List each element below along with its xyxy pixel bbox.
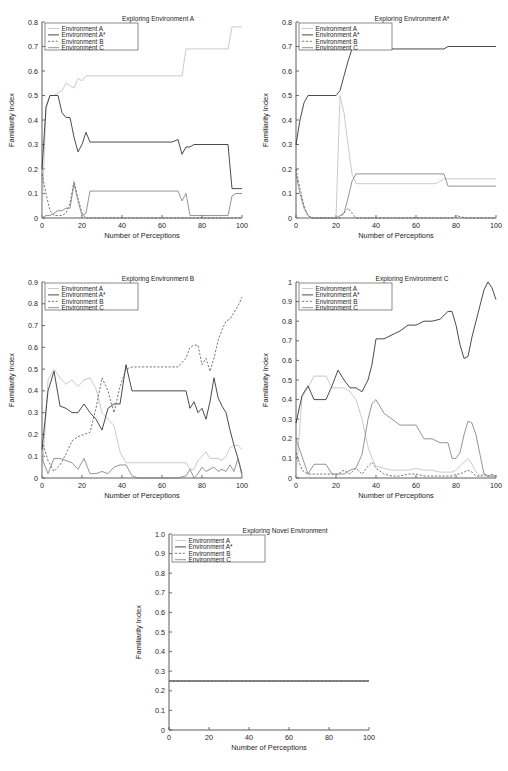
x-tick-label: 40 bbox=[372, 221, 380, 230]
legend-label: Environment C bbox=[62, 44, 105, 51]
y-axis-label: Familiarity Index bbox=[261, 93, 270, 147]
series-env-c bbox=[42, 458, 242, 478]
y-tick-label: 0 bbox=[34, 474, 38, 483]
x-tick-label: 20 bbox=[205, 733, 213, 742]
y-tick-label: 0 bbox=[34, 214, 38, 223]
chart-title: Exploring Novel Environment bbox=[242, 527, 327, 535]
y-tick-label: 0.8 bbox=[28, 18, 38, 27]
axes-lines bbox=[42, 22, 242, 218]
y-tick-label: 0.9 bbox=[28, 278, 38, 287]
y-tick-label: 0.7 bbox=[28, 42, 38, 51]
axes-lines bbox=[169, 534, 369, 730]
legend-label: Environment C bbox=[316, 304, 359, 311]
chart-svg: Exploring Environment B00.10.20.30.40.50… bbox=[0, 260, 254, 518]
y-tick-label: 0.6 bbox=[282, 67, 292, 76]
y-axis-label: Familiarity Index bbox=[134, 605, 143, 659]
y-axis-label: Familiarity Index bbox=[7, 353, 16, 407]
y-tick-label: 0 bbox=[288, 474, 292, 483]
y-tick-label: 0.2 bbox=[282, 434, 292, 443]
y-tick-label: 0.4 bbox=[155, 647, 165, 656]
x-tick-label: 80 bbox=[452, 221, 460, 230]
series-env-a bbox=[42, 27, 242, 218]
y-tick-label: 0.2 bbox=[28, 430, 38, 439]
y-tick-label: 0.3 bbox=[28, 140, 38, 149]
y-tick-label: 0.1 bbox=[282, 189, 292, 198]
y-tick-label: 0 bbox=[161, 726, 165, 735]
x-tick-label: 60 bbox=[158, 221, 166, 230]
y-tick-label: 0.2 bbox=[282, 165, 292, 174]
y-tick-label: 0.5 bbox=[282, 91, 292, 100]
series-env-b bbox=[296, 169, 496, 218]
x-tick-label: 100 bbox=[236, 481, 248, 490]
y-tick-label: 1.0 bbox=[155, 530, 165, 539]
y-tick-label: 0.4 bbox=[28, 386, 38, 395]
x-tick-label: 100 bbox=[490, 221, 502, 230]
y-tick-label: 0.5 bbox=[28, 365, 38, 374]
chart-panel-env-a: Exploring Environment A00.10.20.30.40.50… bbox=[0, 0, 254, 258]
x-tick-label: 40 bbox=[118, 221, 126, 230]
y-tick-label: 0.1 bbox=[155, 706, 165, 715]
series-env-b bbox=[42, 297, 242, 471]
x-tick-label: 20 bbox=[78, 481, 86, 490]
legend-label: Environment C bbox=[316, 44, 359, 51]
chart-panel-novel-env: Exploring Novel Environment00.10.20.30.4… bbox=[127, 512, 381, 770]
series-env-c bbox=[296, 174, 496, 218]
x-tick-label: 40 bbox=[118, 481, 126, 490]
x-tick-label: 0 bbox=[294, 221, 298, 230]
series-env-a-star bbox=[296, 47, 496, 145]
chart-title: Exploring Environment C bbox=[376, 275, 449, 283]
y-tick-label: 0.3 bbox=[28, 408, 38, 417]
chart-svg: Exploring Environment A*00.10.20.30.40.5… bbox=[254, 0, 508, 258]
y-tick-label: 0.1 bbox=[28, 452, 38, 461]
x-tick-label: 60 bbox=[412, 481, 420, 490]
y-tick-label: 0.6 bbox=[28, 343, 38, 352]
x-tick-label: 80 bbox=[198, 221, 206, 230]
y-tick-label: 0.9 bbox=[155, 549, 165, 558]
series-env-a bbox=[296, 96, 496, 219]
series-env-a bbox=[42, 369, 242, 478]
y-tick-label: 0.7 bbox=[155, 588, 165, 597]
chart-svg: Exploring Novel Environment00.10.20.30.4… bbox=[127, 512, 381, 770]
y-tick-label: 0.6 bbox=[28, 67, 38, 76]
chart-title: Exploring Environment A bbox=[122, 15, 195, 23]
chart-svg: Exploring Environment C00.10.20.30.40.50… bbox=[254, 260, 508, 518]
chart-panel-env-c: Exploring Environment C00.10.20.30.40.50… bbox=[254, 260, 508, 518]
y-tick-label: 0.1 bbox=[28, 189, 38, 198]
x-tick-label: 0 bbox=[40, 481, 44, 490]
x-tick-label: 60 bbox=[285, 733, 293, 742]
y-tick-label: 0 bbox=[288, 214, 292, 223]
x-tick-label: 20 bbox=[78, 221, 86, 230]
y-tick-label: 0.4 bbox=[282, 395, 292, 404]
y-tick-label: 0.4 bbox=[282, 116, 292, 125]
y-tick-label: 0.7 bbox=[28, 321, 38, 330]
y-tick-label: 0.2 bbox=[28, 165, 38, 174]
y-tick-label: 0.3 bbox=[155, 667, 165, 676]
x-axis-label: Number of Perceptions bbox=[358, 491, 434, 500]
chart-title: Exploring Environment A* bbox=[375, 15, 450, 23]
legend-label: Environment C bbox=[62, 304, 105, 311]
axes-lines bbox=[296, 22, 496, 218]
y-tick-label: 0.8 bbox=[155, 569, 165, 578]
x-tick-label: 60 bbox=[412, 221, 420, 230]
chart-panel-env-a-star: Exploring Environment A*00.10.20.30.40.5… bbox=[254, 0, 508, 258]
y-tick-label: 0.5 bbox=[282, 376, 292, 385]
x-axis-label: Number of Perceptions bbox=[104, 491, 180, 500]
x-tick-label: 60 bbox=[158, 481, 166, 490]
y-tick-label: 0.8 bbox=[282, 18, 292, 27]
y-axis-label: Familiarity Index bbox=[7, 93, 16, 147]
y-tick-label: 0.3 bbox=[282, 415, 292, 424]
x-tick-label: 100 bbox=[490, 481, 502, 490]
figure-grid: Exploring Environment A00.10.20.30.40.50… bbox=[0, 0, 508, 771]
x-tick-label: 20 bbox=[332, 481, 340, 490]
x-tick-label: 100 bbox=[363, 733, 375, 742]
x-tick-label: 80 bbox=[325, 733, 333, 742]
y-tick-label: 0.8 bbox=[28, 299, 38, 308]
series-env-c bbox=[42, 184, 242, 218]
series-env-a-star bbox=[42, 96, 242, 189]
y-tick-label: 0.6 bbox=[155, 608, 165, 617]
x-tick-label: 80 bbox=[198, 481, 206, 490]
x-tick-label: 40 bbox=[245, 733, 253, 742]
series-env-a-star bbox=[42, 365, 242, 474]
y-tick-label: 0.4 bbox=[28, 116, 38, 125]
y-tick-label: 0.3 bbox=[282, 140, 292, 149]
